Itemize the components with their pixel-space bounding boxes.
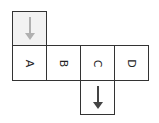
cell-label: C	[92, 59, 103, 67]
arrow-down-icon	[92, 85, 104, 111]
cell-label: D	[126, 59, 137, 67]
bottom-arrow-cell	[80, 80, 115, 115]
cell-label: B	[58, 59, 69, 67]
cell-a: A	[12, 45, 47, 81]
arrow-down-icon	[24, 16, 36, 42]
cell-label: A	[24, 59, 35, 67]
cell-d: D	[114, 45, 149, 81]
cell-b: B	[46, 45, 81, 81]
cell-c: C	[80, 45, 115, 81]
top-arrow-cell	[12, 11, 47, 46]
